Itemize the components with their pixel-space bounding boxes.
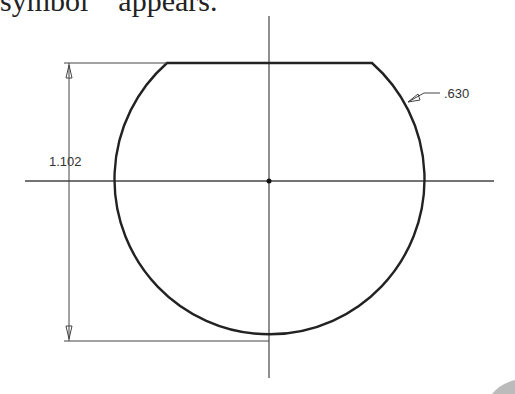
center-point [267,179,272,184]
drawing-page: symbol appears. 1.102 .630 [0,0,515,394]
dimension-radius-label: .630 [444,86,469,101]
radius-leader-line [408,93,440,102]
page-corner-artifact [492,380,515,394]
technical-drawing: 1.102 .630 [0,0,515,394]
leader-arrowhead-icon [408,94,420,102]
dimension-vertical-label: 1.102 [49,154,82,169]
